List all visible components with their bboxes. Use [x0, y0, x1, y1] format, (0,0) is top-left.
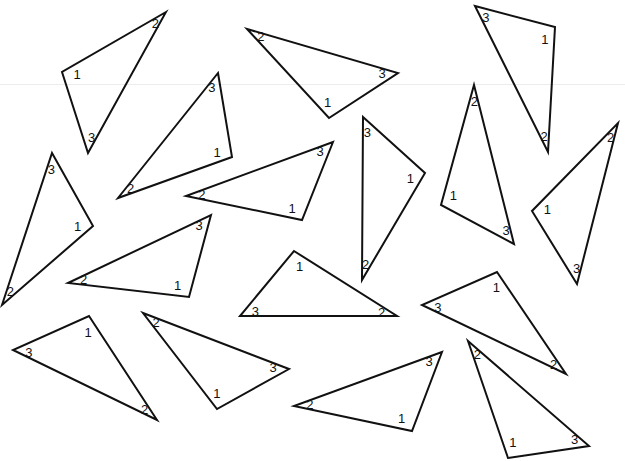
triangle-t16: 231 [468, 341, 589, 458]
triangle-t4: 312 [118, 73, 232, 198]
triangle-t12: 123 [422, 272, 566, 374]
angle-label: 1 [84, 325, 91, 340]
triangle-outline [62, 12, 166, 153]
angle-label: 1 [288, 201, 295, 216]
triangle-t2: 231 [247, 29, 398, 118]
angle-label: 3 [316, 144, 323, 159]
angle-label: 1 [450, 188, 457, 203]
triangle-worksheet: 2132313123123123123122312313121231231232… [0, 0, 625, 461]
triangle-t3: 312 [475, 6, 555, 152]
angle-label: 2 [474, 347, 481, 362]
angle-label: 3 [48, 162, 55, 177]
angle-label: 1 [174, 278, 181, 293]
angle-label: 1 [213, 386, 220, 401]
angle-label: 1 [324, 95, 331, 110]
angle-label: 2 [257, 29, 264, 44]
angle-label: 3 [269, 360, 276, 375]
triangle-t1: 213 [62, 12, 166, 153]
triangle-outline [441, 85, 514, 244]
triangle-t13: 123 [13, 316, 157, 420]
triangle-t10: 312 [68, 215, 211, 297]
angle-label: 2 [362, 257, 369, 272]
angle-label: 2 [607, 130, 614, 145]
angle-label: 1 [74, 219, 81, 234]
angle-label: 1 [493, 280, 500, 295]
angle-label: 3 [196, 218, 203, 233]
angle-label: 3 [502, 223, 509, 238]
angle-label: 1 [296, 259, 303, 274]
angle-label: 1 [509, 435, 516, 450]
angle-label: 1 [74, 67, 81, 82]
angle-label: 2 [541, 129, 548, 144]
angle-label: 2 [80, 272, 87, 287]
angle-label: 1 [398, 411, 405, 426]
triangle-t14: 231 [143, 313, 289, 409]
angle-label: 3 [426, 354, 433, 369]
triangle-t6: 312 [186, 142, 333, 220]
triangle-t8: 231 [441, 85, 514, 244]
angle-label: 2 [198, 187, 205, 202]
triangle-outline [186, 142, 333, 220]
angle-label: 1 [407, 171, 414, 186]
triangle-outline [247, 29, 398, 118]
angle-label: 2 [378, 305, 385, 320]
triangle-t15: 312 [294, 352, 442, 431]
angle-label: 2 [550, 357, 557, 372]
angle-label: 3 [364, 125, 371, 140]
angle-label: 2 [306, 397, 313, 412]
angle-label: 2 [7, 284, 14, 299]
angle-label: 3 [573, 261, 580, 276]
angle-label: 3 [252, 304, 259, 319]
angle-label: 3 [208, 80, 215, 95]
triangle-outline [362, 117, 425, 280]
angle-label: 2 [153, 315, 160, 330]
angle-label: 2 [127, 181, 134, 196]
angle-label: 3 [378, 66, 385, 81]
angle-label: 3 [571, 432, 578, 447]
angle-label: 3 [482, 10, 489, 25]
angle-label: 2 [471, 94, 478, 109]
angle-label: 2 [152, 16, 159, 31]
angle-label: 3 [88, 130, 95, 145]
angle-label: 1 [544, 202, 551, 217]
angle-label: 1 [541, 32, 548, 47]
triangle-outline [294, 352, 442, 431]
angle-label: 1 [213, 145, 220, 160]
triangle-outline [68, 215, 211, 297]
triangle-t7: 312 [362, 117, 425, 280]
angle-label: 2 [141, 402, 148, 417]
angle-label: 3 [25, 345, 32, 360]
angle-label: 3 [434, 300, 441, 315]
